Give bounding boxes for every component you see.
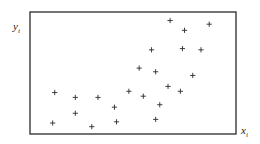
y-axis-label: yi <box>13 21 20 35</box>
plot-frame <box>30 12 236 134</box>
plus-marker-icon <box>126 89 131 94</box>
plus-marker-icon <box>178 89 183 94</box>
plus-marker-icon <box>207 22 212 27</box>
plus-marker-icon <box>89 124 94 129</box>
x-axis-label: xi <box>241 125 248 139</box>
plus-marker-icon <box>190 73 195 78</box>
plus-marker-icon <box>180 46 185 51</box>
plus-marker-icon <box>167 18 172 23</box>
plus-marker-icon <box>73 95 78 100</box>
plus-marker-icon <box>153 117 158 122</box>
plus-marker-icon <box>52 90 57 95</box>
plus-marker-icon <box>112 105 117 110</box>
plus-marker-icon <box>182 28 187 33</box>
plus-marker-icon <box>165 84 170 89</box>
data-points <box>50 18 212 129</box>
plus-marker-icon <box>149 47 154 52</box>
plus-marker-icon <box>73 111 78 116</box>
plus-marker-icon <box>157 102 162 107</box>
plus-marker-icon <box>114 119 119 124</box>
scatter-plot <box>0 0 260 144</box>
plus-marker-icon <box>50 120 55 125</box>
plus-marker-icon <box>141 94 146 99</box>
plus-marker-icon <box>137 66 142 71</box>
plus-marker-icon <box>198 47 203 52</box>
plus-marker-icon <box>153 69 158 74</box>
plus-marker-icon <box>95 95 100 100</box>
